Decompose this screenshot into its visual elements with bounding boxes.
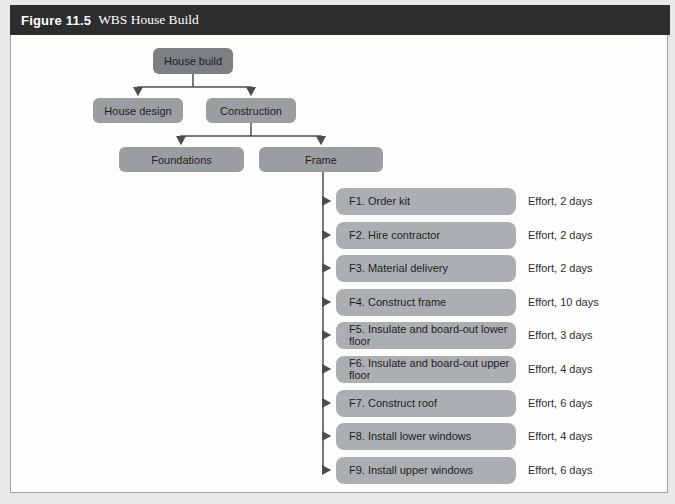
effort-label-f2: Effort, 2 days [528, 222, 638, 249]
task-box-f6: F6. Insulate and board-out upper floor [336, 356, 516, 383]
node-house-design: House design [93, 98, 183, 123]
task-box-f9: F9. Install upper windows [336, 457, 516, 484]
node-house-build: House build [153, 48, 233, 74]
effort-label-f7: Effort, 6 days [528, 390, 638, 417]
effort-label-f4: Effort, 10 days [528, 289, 638, 316]
node-foundations: Foundations [119, 147, 244, 172]
wbs-diagram: House build House design Construction Fo… [11, 6, 667, 492]
effort-label-f9: Effort, 6 days [528, 457, 638, 484]
task-box-f2: F2. Hire contractor [336, 222, 516, 249]
task-box-f5: F5. Insulate and board-out lower floor [336, 322, 516, 349]
connector-lines [11, 6, 667, 492]
effort-label-f3: Effort, 2 days [528, 255, 638, 282]
effort-label-f6: Effort, 4 days [528, 356, 638, 383]
task-box-f8: F8. Install lower windows [336, 423, 516, 450]
task-box-f1: F1. Order kit [336, 188, 516, 215]
effort-label-f1: Effort, 2 days [528, 188, 638, 215]
figure-frame: Figure 11.5 WBS House Build [10, 5, 668, 493]
node-construction: Construction [206, 98, 296, 123]
effort-label-f5: Effort, 3 days [528, 322, 638, 349]
node-frame: Frame [259, 147, 383, 172]
task-box-f3: F3. Material delivery [336, 255, 516, 282]
task-box-f7: F7. Construct roof [336, 390, 516, 417]
task-box-f4: F4. Construct frame [336, 289, 516, 316]
effort-label-f8: Effort, 4 days [528, 423, 638, 450]
